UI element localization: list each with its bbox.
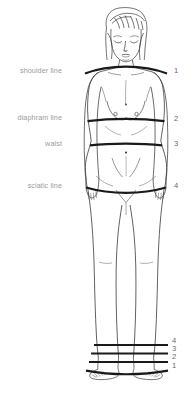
marker-line-shoulder xyxy=(85,67,167,74)
marker-number-1: 1 xyxy=(174,66,178,75)
abdomen-detail xyxy=(96,126,156,215)
marker-number-3: 3 xyxy=(174,139,178,148)
label-diaphram-line: diaphram line xyxy=(18,113,62,122)
marker-line-waist xyxy=(90,144,162,146)
marker-line-diaphram xyxy=(88,119,165,121)
marker-number-4: 4 xyxy=(174,181,178,190)
marker-number-2: 2 xyxy=(174,114,178,123)
label-shoulder-line: shoulder line xyxy=(20,66,62,75)
foot-scale-number-1: 1 xyxy=(172,362,176,370)
foot-scale-line-1 xyxy=(86,371,168,375)
label-waist: waist xyxy=(45,139,62,148)
foot-scale-number-stack: 4 3 2 1 xyxy=(172,337,176,370)
diagram-canvas: shoulder line diaphram line waist sciati… xyxy=(0,0,194,393)
legs-outline xyxy=(88,190,164,358)
arms-outline xyxy=(84,73,168,201)
label-sciatic-line: sciatic line xyxy=(28,181,62,190)
chest-detail xyxy=(102,80,151,120)
face-outline xyxy=(111,29,141,62)
hair-outline xyxy=(106,8,147,60)
female-figure-drawing xyxy=(0,0,194,393)
